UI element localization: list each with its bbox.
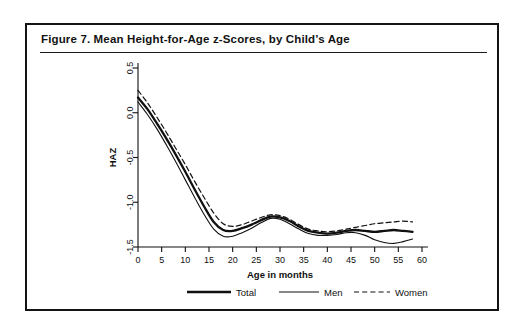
series-line-total xyxy=(138,98,413,234)
x-tick-label: 30 xyxy=(275,255,285,265)
x-tick-label: 45 xyxy=(346,255,356,265)
x-tick-label: 50 xyxy=(370,255,380,265)
y-tick-label: -0.5 xyxy=(125,150,135,166)
x-tick-label: 0 xyxy=(135,255,140,265)
series-line-men xyxy=(138,102,413,243)
figure-title: Figure 7. Mean Height-for-Age z-Scores, … xyxy=(41,33,350,45)
y-tick-label: -1.5 xyxy=(125,239,135,255)
title-divider xyxy=(40,52,487,53)
legend-label-women[interactable]: Women xyxy=(395,287,428,298)
x-tick-label: 35 xyxy=(299,255,309,265)
x-tick-label: 40 xyxy=(322,255,332,265)
chart-plot-area: 0.50.0-0.5-1.0-1.50510152025303540455055… xyxy=(27,55,496,310)
x-tick-label: 60 xyxy=(417,255,427,265)
y-tick-label: 0.5 xyxy=(125,62,135,75)
x-tick-label: 10 xyxy=(180,255,190,265)
x-tick-label: 15 xyxy=(204,255,214,265)
y-tick-label: 0.0 xyxy=(125,106,135,119)
x-axis-title: Age in months xyxy=(247,269,313,280)
y-tick-label: -1.0 xyxy=(125,194,135,210)
x-tick-label: 25 xyxy=(251,255,261,265)
legend-label-total[interactable]: Total xyxy=(236,287,256,298)
figure-container: Figure 7. Mean Height-for-Age z-Scores, … xyxy=(25,23,499,311)
x-tick-label: 55 xyxy=(393,255,403,265)
x-tick-label: 20 xyxy=(228,255,238,265)
legend-label-men[interactable]: Men xyxy=(324,287,342,298)
haz-line-chart: 0.50.0-0.5-1.0-1.50510152025303540455055… xyxy=(27,55,496,310)
x-tick-label: 5 xyxy=(159,255,164,265)
y-axis-title: HAZ xyxy=(107,148,118,168)
